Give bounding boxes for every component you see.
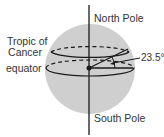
- north-pole-label: North Pole: [94, 13, 144, 24]
- tropic-of-cancer-label-line2: Cancer: [7, 47, 43, 58]
- earth-tilt-diagram: North Pole South Pole Tropic of Cancer e…: [0, 0, 164, 137]
- south-pole-label: South Pole: [94, 113, 145, 124]
- tilt-angle-label: 23.5°: [141, 52, 164, 63]
- earth-center-dot: [87, 66, 92, 71]
- equator-label: equator: [6, 63, 42, 74]
- tropic-of-cancer-label: Tropic of Cancer: [7, 36, 43, 58]
